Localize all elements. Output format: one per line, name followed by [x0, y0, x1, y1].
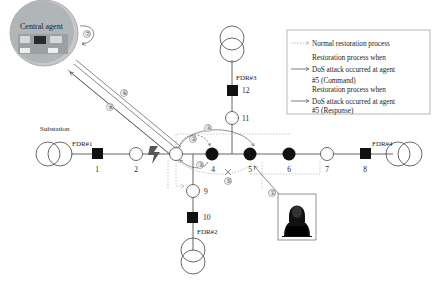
dos-restoration-diagram: Central agent ⑦ ⑥ ⑧ Substation FDR#1 FDR…: [0, 0, 436, 286]
transformer-fdr1: [36, 142, 72, 166]
legend-item-response-line2: DoS attack occurred at agent: [312, 98, 395, 106]
node-label-1: 1: [95, 165, 99, 174]
feeder-label-fdr4: FDR#4: [372, 140, 393, 148]
legend-item-normal: Normal restoration process: [312, 40, 390, 48]
attacker-icon: [278, 194, 316, 240]
step-2: ②: [191, 136, 196, 142]
node-label-10: 10: [203, 213, 211, 222]
central-agent-label: Central agent: [20, 22, 64, 31]
node-1[interactable]: [92, 148, 103, 159]
step-8: ⑧: [108, 104, 113, 110]
feeder-label-fdr1: FDR#1: [72, 140, 93, 148]
step-7: ⑦: [85, 31, 90, 37]
step-6: ⑥: [122, 90, 127, 96]
node-12[interactable]: [227, 85, 238, 96]
legend-item-command-line3: #5 (Command): [312, 77, 356, 85]
step-5: ⑤: [226, 178, 231, 184]
step-3: ③: [198, 162, 203, 168]
node-label-4: 4: [211, 165, 215, 174]
node-label-6: 6: [287, 165, 291, 174]
node-label-12: 12: [242, 86, 250, 95]
node-2[interactable]: [130, 148, 143, 161]
node-3[interactable]: [170, 148, 183, 161]
fault-lightning-icon: [148, 146, 160, 164]
node-7[interactable]: [321, 148, 334, 161]
node-4[interactable]: [206, 148, 219, 161]
node-5[interactable]: [244, 148, 257, 161]
feeder-label-fdr3: FDR#3: [236, 74, 257, 82]
node-label-5: 5: [248, 165, 252, 174]
legend-item-response-line3: #5 (Response): [312, 107, 354, 115]
node-label-9: 9: [204, 187, 208, 196]
legend-item-command-line2: DoS attack occurred at agent: [312, 66, 395, 74]
step-4: ④: [206, 125, 211, 131]
node-label-7: 7: [325, 165, 329, 174]
node-label-11: 11: [242, 114, 249, 123]
transformer-fdr3: [220, 26, 244, 62]
legend-item-response-line1: Restoration process when: [312, 86, 386, 94]
legend: Normal restoration process Restoration p…: [287, 30, 430, 115]
central-agent: Central agent: [10, 0, 78, 66]
node-10[interactable]: [187, 212, 198, 223]
node-6[interactable]: [283, 148, 296, 161]
feeder-label-fdr2: FDR#2: [197, 228, 218, 236]
node-label-2: 2: [134, 165, 138, 174]
node-8[interactable]: [360, 148, 371, 159]
substation-label: Substation: [40, 125, 70, 133]
legend-item-command-line1: Restoration process when: [312, 54, 386, 62]
node-11[interactable]: [226, 112, 239, 125]
node-9[interactable]: [187, 185, 200, 198]
node-label-8: 8: [363, 165, 367, 174]
step-1: ①: [270, 190, 275, 196]
